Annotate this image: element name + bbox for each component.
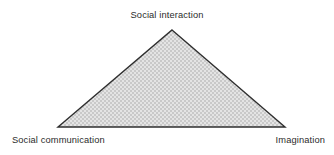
triangle-shape xyxy=(58,30,285,127)
label-imagination: Imagination xyxy=(276,135,325,146)
label-social-interaction: Social interaction xyxy=(0,10,334,21)
label-social-communication: Social communication xyxy=(12,135,105,146)
triangle-graphic xyxy=(0,0,334,155)
diagram-canvas: Social interaction Social communication … xyxy=(0,0,334,155)
